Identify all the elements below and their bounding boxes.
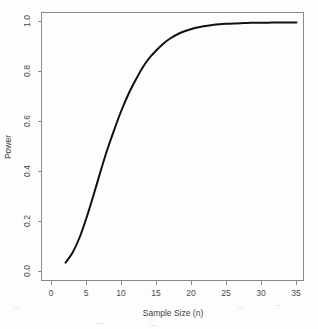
x-tick-label-25: 25: [221, 288, 231, 298]
y-axis-title: Power: [3, 135, 13, 159]
y-tick-label-0-0: 0.0: [22, 265, 32, 277]
x-tick-label-30: 30: [256, 288, 266, 298]
x-tick-label-10: 10: [116, 288, 126, 298]
y-tick-label-0-8: 0.8: [22, 65, 32, 77]
y-axis-tick-labels: 1.0 0.8 0.6 0.4 0.2 0.0: [22, 15, 32, 277]
y-tick-label-0-4: 0.4: [22, 165, 32, 177]
plot-frame: [42, 13, 304, 281]
x-tick-label-15: 15: [151, 288, 161, 298]
y-tick-label-0-6: 0.6: [22, 115, 32, 127]
x-axis-ticks: [52, 281, 297, 285]
y-axis-ticks: [38, 22, 42, 272]
x-tick-label-20: 20: [186, 288, 196, 298]
x-tick-label-35: 35: [291, 288, 301, 298]
chart-canvas: 1.0 0.8 0.6 0.4 0.2 0.0 Power 0 5 10 15 …: [0, 0, 318, 329]
power-curve-figure: 1.0 0.8 0.6 0.4 0.2 0.0 Power 0 5 10 15 …: [0, 0, 318, 329]
x-tick-label-0: 0: [49, 288, 54, 298]
power-curve-line: [66, 22, 297, 262]
x-axis-title: Sample Size (n): [143, 308, 204, 318]
scan-noise: [4, 156, 280, 326]
x-axis-tick-labels: 0 5 10 15 20 25 30 35: [49, 288, 301, 298]
y-tick-label-0-2: 0.2: [22, 215, 32, 227]
y-tick-label-1-0: 1.0: [22, 15, 32, 27]
x-tick-label-5: 5: [84, 288, 89, 298]
